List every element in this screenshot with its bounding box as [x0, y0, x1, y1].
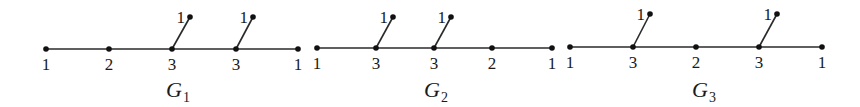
- vertex-degree-label: 1: [566, 53, 575, 72]
- graph-name-label: G3: [692, 77, 716, 105]
- vertex: [819, 44, 825, 50]
- vertex: [489, 45, 495, 51]
- graph-3: 1323111G3: [566, 5, 827, 105]
- graph-2: 1332111G2: [313, 8, 557, 105]
- vertex-degree-label: 3: [372, 54, 381, 73]
- vertex-degree-label: 3: [430, 54, 439, 73]
- vertex: [169, 46, 175, 52]
- vertex-degree-label: 3: [232, 55, 241, 74]
- vertex-degree-label: 1: [294, 55, 303, 74]
- vertex: [549, 45, 555, 51]
- pendant-vertex: [774, 11, 780, 17]
- pendant-degree-label: 1: [177, 8, 186, 27]
- pendant-degree-label: 1: [637, 5, 646, 24]
- vertex-degree-label: 1: [818, 53, 827, 72]
- vertex: [567, 44, 573, 50]
- vertex-degree-label: 1: [548, 54, 557, 73]
- vertex-degree-label: 2: [692, 53, 701, 72]
- vertex-degree-label: 3: [629, 53, 638, 72]
- vertex: [295, 46, 301, 52]
- vertex: [693, 44, 699, 50]
- vertex-degree-label: 2: [105, 55, 114, 74]
- vertex: [630, 44, 636, 50]
- vertex: [106, 46, 112, 52]
- pendant-vertex: [250, 14, 256, 20]
- pendant-vertex: [647, 11, 653, 17]
- vertex: [431, 45, 437, 51]
- pendant-degree-label: 1: [240, 8, 249, 27]
- vertex-degree-label: 3: [755, 53, 764, 72]
- pendant-vertex: [187, 14, 193, 20]
- vertex: [373, 45, 379, 51]
- vertex-degree-label: 2: [488, 54, 497, 73]
- pendant-degree-label: 1: [438, 8, 447, 27]
- graph-diagram: 1233111G11332111G21323111G3: [0, 0, 860, 107]
- pendant-vertex: [448, 14, 454, 20]
- pendant-degree-label: 1: [764, 5, 773, 24]
- vertex: [43, 46, 49, 52]
- graph-1: 1233111G1: [42, 8, 303, 105]
- vertex-degree-label: 1: [313, 54, 322, 73]
- vertex: [314, 45, 320, 51]
- pendant-vertex: [390, 14, 396, 20]
- graph-name-label: G2: [424, 77, 448, 105]
- vertex-degree-label: 1: [42, 55, 51, 74]
- vertex-degree-label: 3: [168, 55, 177, 74]
- vertex: [233, 46, 239, 52]
- pendant-degree-label: 1: [380, 8, 389, 27]
- graph-name-label: G1: [166, 77, 190, 105]
- vertex: [756, 44, 762, 50]
